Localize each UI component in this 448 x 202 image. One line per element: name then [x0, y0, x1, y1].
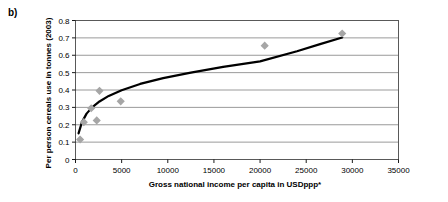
y-tick-label: 0.5 — [58, 69, 70, 78]
y-tick-label: 0.8 — [58, 17, 70, 26]
y-tick-label: 0.7 — [58, 34, 70, 43]
data-point-marker — [94, 117, 100, 123]
data-points — [77, 30, 345, 142]
data-point-marker — [339, 30, 345, 36]
x-tick-label: 30000 — [341, 166, 364, 175]
data-point-marker — [96, 88, 102, 94]
y-axis-ticks: 00.10.20.30.40.50.60.70.8 — [58, 17, 75, 165]
scatter-plot: 05000100001500020000250003000035000 00.1… — [0, 0, 448, 202]
data-point-marker — [262, 43, 268, 49]
data-point-marker — [77, 136, 83, 142]
chart-figure: b) Per person cereals use in tonnes (200… — [0, 0, 448, 202]
y-tick-label: 0.2 — [58, 121, 70, 130]
x-tick-label: 5000 — [113, 166, 131, 175]
x-tick-label: 20000 — [249, 166, 272, 175]
data-point-marker — [118, 98, 124, 104]
x-axis-ticks: 05000100001500020000250003000035000 — [73, 160, 410, 175]
gridlines — [76, 21, 399, 143]
y-tick-label: 0.3 — [58, 103, 70, 112]
y-tick-label: 0.4 — [58, 86, 70, 95]
y-tick-label: 0.1 — [58, 138, 70, 147]
x-tick-label: 15000 — [203, 166, 226, 175]
x-tick-label: 0 — [73, 166, 78, 175]
x-tick-label: 10000 — [157, 166, 180, 175]
trend-line — [79, 38, 343, 134]
trend-line-path — [79, 38, 343, 134]
x-tick-label: 25000 — [295, 166, 318, 175]
y-tick-label: 0 — [65, 156, 70, 165]
y-tick-label: 0.6 — [58, 51, 70, 60]
x-tick-label: 35000 — [387, 166, 410, 175]
